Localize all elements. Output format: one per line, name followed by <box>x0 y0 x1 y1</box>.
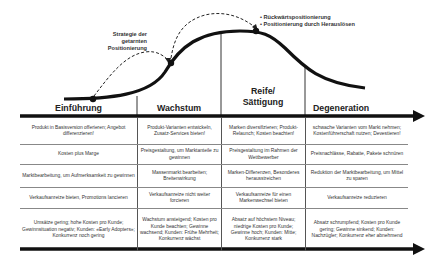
table-cell: Reduktion der Marktbearbeitung, um Mitte… <box>305 165 408 187</box>
table-cell: Preisnachlässe, Rabatte, Pakete schnüren <box>305 145 408 164</box>
annotation-hidden-positioning: Strategie der getarnten Positionierung <box>97 31 147 52</box>
strategy-table: Produkt in Basisversion offerieren; Ange… <box>20 118 408 251</box>
table-cell: Verkaufsanreize bieten, Promotions lanci… <box>20 188 137 208</box>
phase-label-wachstum: Wachstum <box>137 103 221 114</box>
annotation-line: Strategie der <box>97 31 147 38</box>
axis-arrowhead-bottom <box>413 243 425 255</box>
table-cell: Wachstum ansteigend; Kosten pro Kunde be… <box>137 209 221 251</box>
annotation-line: Positionierung <box>97 45 147 52</box>
annotation-bullet: Positionierung durch Herauslösen <box>260 21 430 28</box>
point-wachstum <box>168 60 174 66</box>
point-reife <box>253 28 259 34</box>
table-cell: Marken diversifizieren; Produkt-Relaunch… <box>221 118 305 144</box>
axis-arrowhead-top <box>413 110 425 122</box>
table-cell: schwache Varianten vom Markt nehmen; Kos… <box>305 118 408 144</box>
point-einfuehrung <box>90 96 96 102</box>
table-cell: Preisgestaltung, um Marktanteile zu gewi… <box>137 145 221 164</box>
dashed-arrow-2 <box>171 14 256 58</box>
dashed-arrow-1 <box>94 52 169 96</box>
table-cell: Produkt in Basisversion offerieren; Ange… <box>20 118 137 144</box>
table-row-distribution: Marktbearbeitung, um Aufmerksamkeit zu g… <box>20 165 408 188</box>
phase-label-einfuehrung: Einführung <box>20 103 137 114</box>
annotation-bullet: Rückwärtspositionierung <box>260 14 430 21</box>
table-cell: Verkaufsanreize reduzieren <box>305 188 408 208</box>
table-cell: Verkaufsanreize für einen Markenwechsel … <box>221 188 305 208</box>
table-cell: Massenmarkt bearbeiten; Breitenwirkung <box>137 165 221 187</box>
table-cell: Verkaufsanreize nicht weiter forcieren <box>137 188 221 208</box>
table-cell: Umsätze gering; hohe Kosten pro Kunde; G… <box>20 209 137 251</box>
table-cell: Absatz auf höchstem Niveau; niedrige Kos… <box>221 209 305 251</box>
table-cell: Produkt-Varianten entwickeln, Zusatz-Ser… <box>137 118 221 144</box>
table-cell: Marktbearbeitung, um Aufmerksamkeit zu g… <box>20 165 137 187</box>
table-cell: Kosten plus Marge <box>20 145 137 164</box>
product-lifecycle-diagram: Strategie der getarnten Positionierung R… <box>0 0 441 267</box>
table-row-price: Kosten plus Marge Preisgestaltung, um Ma… <box>20 145 408 165</box>
table-cell: Absatz schrumpfend; Kosten pro Kunde ger… <box>305 209 408 251</box>
table-row-market: Umsätze gering; hohe Kosten pro Kunde; G… <box>20 209 408 251</box>
phase-label-line: Reife/ <box>221 86 305 97</box>
annotation-line: getarnten <box>97 38 147 45</box>
phase-label-reife: Reife/ Sättigung <box>221 86 305 108</box>
table-row-promotion: Verkaufsanreize bieten, Promotions lanci… <box>20 188 408 209</box>
annotation-repositioning-list: Rückwärtspositionierung Positionierung d… <box>260 14 430 28</box>
table-cell: Preisgestaltung im Rahmen der Wettbewerb… <box>221 145 305 164</box>
phase-label-degeneration: Degeneration <box>305 103 395 114</box>
table-row-product: Produkt in Basisversion offerieren; Ange… <box>20 118 408 145</box>
phase-label-line: Sättigung <box>221 97 305 108</box>
table-cell: Marken-Differenzen, Besonderes herausstr… <box>221 165 305 187</box>
